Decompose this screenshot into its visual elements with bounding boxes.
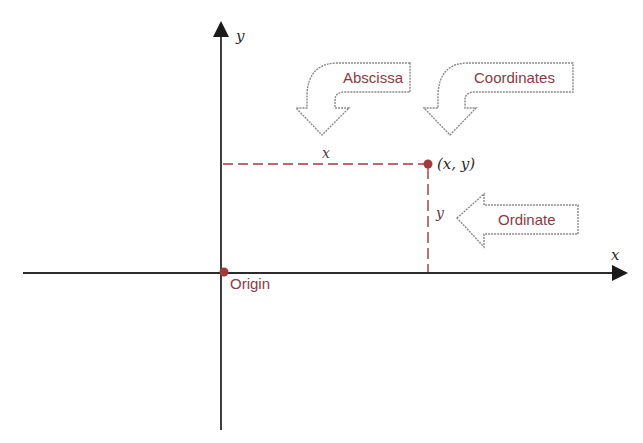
abscissa-callout: Abscissa — [296, 63, 410, 135]
point-marker — [424, 160, 433, 169]
ordinate-callout: Ordinate — [457, 194, 578, 247]
y-axis: y — [213, 21, 245, 430]
y-axis-arrowhead-icon — [213, 21, 229, 37]
coordinates-callout: Coordinates — [424, 63, 573, 135]
ordinate-label: Ordinate — [498, 211, 556, 228]
x-axis-label: x — [611, 246, 620, 264]
x-axis-arrowhead-icon — [612, 265, 628, 281]
origin-marker — [220, 268, 229, 277]
abscissa-label: Abscissa — [343, 69, 404, 86]
origin: Origin — [220, 268, 271, 293]
origin-label: Origin — [230, 275, 270, 292]
point-xy: (x, y) — [424, 155, 476, 173]
point-label: (x, y) — [437, 155, 475, 173]
ordinate-length-label: y — [435, 205, 445, 221]
abscissa-length-label: x — [322, 145, 330, 161]
coordinate-diagram: x y x y (x, y) Origin Abscissa — [0, 0, 643, 443]
y-axis-label: y — [235, 27, 245, 45]
coordinates-label: Coordinates — [474, 69, 555, 86]
x-axis: x — [23, 246, 628, 281]
projection-lines: x y — [223, 145, 445, 272]
